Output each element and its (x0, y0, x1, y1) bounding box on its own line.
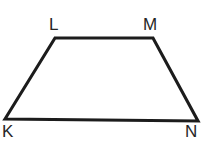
vertex-label-n: N (185, 123, 197, 140)
trapezoid-outline (5, 38, 198, 121)
trapezoid-drawing (0, 0, 204, 155)
geometry-figure-canvas: L M K N (0, 0, 204, 155)
vertex-label-m: M (143, 16, 157, 33)
vertex-label-k: K (2, 123, 13, 140)
vertex-label-l: L (49, 16, 58, 33)
